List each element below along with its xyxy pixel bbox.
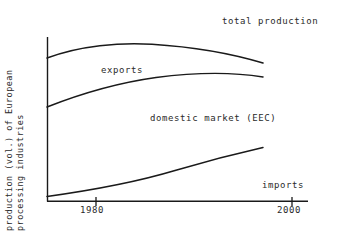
series-line-domestic-market — [47, 73, 263, 107]
annotation-total-production: total production — [222, 16, 318, 26]
x-tick-label-1980: 1980 — [80, 205, 104, 215]
annotation-exports: exports — [101, 65, 143, 75]
series-line-imports — [47, 148, 263, 197]
annotation-imports: imports — [262, 180, 304, 190]
series-line-total-production — [47, 44, 263, 63]
annotation-domestic-market: domestic market (EEC) — [150, 113, 276, 123]
chart-container: production (vol.) of European processing… — [0, 0, 337, 233]
x-tick-label-2000: 2000 — [277, 205, 301, 215]
